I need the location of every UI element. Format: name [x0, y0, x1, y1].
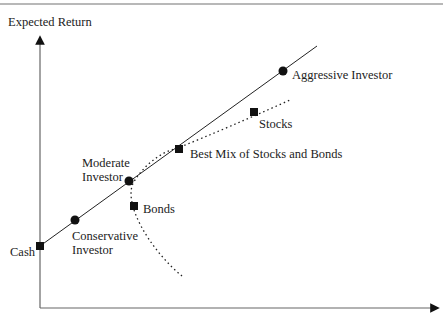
- conservative-label-line1: Conservative: [72, 229, 138, 243]
- moderate-label-line2: Investor: [82, 170, 123, 184]
- best-mix-label: Best Mix of Stocks and Bonds: [190, 147, 342, 161]
- conservative-label-line2: Investor: [72, 243, 113, 257]
- bonds-marker: [130, 202, 138, 210]
- diagram-canvas: [0, 0, 443, 323]
- best-mix-marker: [175, 145, 183, 153]
- cash-marker: [36, 242, 44, 250]
- aggressive-label: Aggressive Investor: [292, 68, 392, 82]
- aggressive-marker: [279, 67, 288, 76]
- bonds-label: Bonds: [143, 202, 175, 216]
- stocks-marker: [250, 108, 258, 116]
- conservative-marker: [71, 216, 80, 225]
- stocks-label: Stocks: [259, 117, 292, 131]
- y-axis-label: Expected Return: [8, 15, 92, 29]
- moderate-label-line1: Moderate: [82, 156, 130, 170]
- cash-label: Cash: [10, 245, 35, 259]
- moderate-marker: [125, 177, 134, 186]
